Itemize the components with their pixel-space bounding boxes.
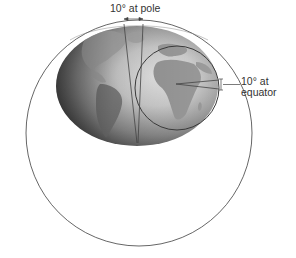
angle-diagram [0,0,296,258]
equator-label-line2: equator [241,87,277,98]
pole-angle-label: 10° at pole [110,3,160,14]
equator-angle-label: 10° at equator [241,76,277,98]
equator-arrow [219,79,240,90]
